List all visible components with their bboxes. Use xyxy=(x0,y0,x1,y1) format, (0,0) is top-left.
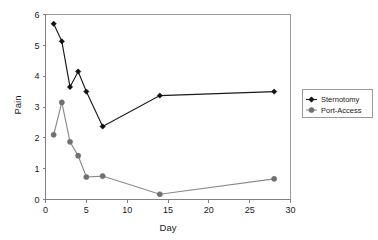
x-tick-label: 5 xyxy=(84,205,89,215)
y-tick-label: 4 xyxy=(34,71,39,81)
x-axis-title: Day xyxy=(160,222,177,233)
x-tick-label: 20 xyxy=(204,205,214,215)
data-point-marker xyxy=(157,93,162,98)
y-tick-label: 6 xyxy=(34,10,39,20)
y-tick-label: 1 xyxy=(34,164,39,174)
data-point-marker xyxy=(76,153,81,158)
series-group xyxy=(51,21,277,197)
x-tick-label: 30 xyxy=(285,205,295,215)
data-point-marker xyxy=(51,21,56,26)
y-tick-label: 2 xyxy=(34,133,39,143)
data-point-marker xyxy=(59,39,64,44)
x-tick-label: 15 xyxy=(163,205,173,215)
legend-swatch-marker xyxy=(309,107,314,112)
x-axis-ticks: 051015202530 xyxy=(43,200,296,215)
x-tick-label: 25 xyxy=(245,205,255,215)
data-point-marker xyxy=(157,192,162,197)
series-line xyxy=(54,24,275,127)
legend-label: Port-Access xyxy=(321,106,362,115)
data-point-marker xyxy=(75,69,80,74)
data-point-marker xyxy=(100,124,105,129)
data-point-marker xyxy=(84,174,89,179)
series-sternotomy xyxy=(51,21,277,129)
x-tick-label: 0 xyxy=(43,205,48,215)
data-point-marker xyxy=(67,139,72,144)
data-point-marker xyxy=(51,132,56,137)
chart-legend: SternotomyPort-Access xyxy=(303,90,373,118)
data-point-marker xyxy=(67,84,72,89)
series-port-access xyxy=(51,100,277,197)
data-point-marker xyxy=(59,100,64,105)
y-tick-label: 3 xyxy=(34,102,39,112)
x-tick-label: 10 xyxy=(122,205,132,215)
y-axis-ticks: 0123456 xyxy=(34,10,45,205)
data-point-marker xyxy=(100,173,105,178)
data-point-marker xyxy=(271,89,276,94)
chart-canvas: 0123456 051015202530 SternotomyPort-Acce… xyxy=(0,0,378,240)
y-tick-label: 5 xyxy=(34,41,39,51)
legend-label: Sternotomy xyxy=(321,95,360,104)
plot-frame xyxy=(46,15,291,200)
line-chart-figure: 0123456 051015202530 SternotomyPort-Acce… xyxy=(0,0,378,240)
data-point-marker xyxy=(272,176,277,181)
data-point-marker xyxy=(84,89,89,94)
y-axis-title: Pain xyxy=(12,95,23,114)
series-line xyxy=(54,102,275,194)
y-tick-label: 0 xyxy=(34,195,39,205)
